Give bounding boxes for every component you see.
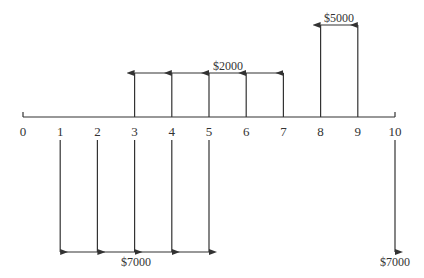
tick-label: 4 <box>169 124 176 139</box>
tick-label: 8 <box>317 124 324 139</box>
tick-labels: 012345678910 <box>20 124 402 139</box>
tick-label: 9 <box>355 124 362 139</box>
tick-label: 2 <box>94 124 101 139</box>
tick-label: 7 <box>280 124 287 139</box>
tick-label: 3 <box>131 124 138 139</box>
label-inflow-5000: $5000 <box>324 11 354 25</box>
cash-flow-diagram: 012345678910 $2000 $5000 $7000 $7000 <box>0 0 424 278</box>
diagram-canvas: 012345678910 $2000 $5000 $7000 $7000 <box>0 0 424 278</box>
label-outflow-single: $7000 <box>380 255 410 269</box>
tick-label: 6 <box>243 124 250 139</box>
tick-label: 5 <box>206 124 213 139</box>
tick-label: 10 <box>389 124 402 139</box>
tick-label: 0 <box>20 124 27 139</box>
label-inflow-2000: $2000 <box>213 59 243 73</box>
tick-label: 1 <box>57 124 64 139</box>
label-outflow-group: $7000 <box>121 255 151 269</box>
